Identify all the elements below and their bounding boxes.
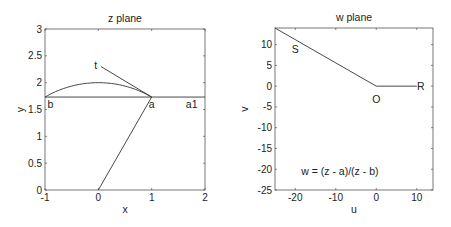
y-axis-label: v [238, 106, 250, 112]
y-tick-label: -25 [258, 185, 273, 196]
x-tick-label: -10 [329, 192, 344, 203]
y-tick-label: 0.5 [28, 158, 42, 169]
annotation-label: w = (z - a)/(z - b) [300, 165, 378, 177]
chart-title: w plane [335, 11, 372, 23]
annotation-label: t [94, 59, 97, 71]
y-tick-label: 2 [36, 77, 42, 88]
x-tick-label: 2 [202, 192, 208, 203]
y-tick-label: -5 [263, 101, 272, 112]
annotation-label: R [417, 80, 425, 92]
axes-frame [45, 29, 205, 190]
x-tick-label: 1 [149, 192, 155, 203]
series-line [98, 97, 151, 190]
y-tick-label: 1.5 [28, 104, 42, 115]
y-axis-label: y [14, 106, 26, 112]
y-tick-label: 0 [36, 185, 42, 196]
annotation-label: a [149, 98, 155, 110]
y-tick-label: -20 [258, 164, 273, 175]
z-plane-axes: -101200.511.522.53z planexytbaa1 [14, 12, 208, 215]
y-tick-label: -15 [258, 143, 273, 154]
annotation-label: a1 [186, 98, 198, 110]
x-tick-label: -20 [288, 192, 303, 203]
series-line [101, 67, 152, 97]
x-tick-label: 10 [411, 192, 423, 203]
annotation-label: S [292, 43, 299, 55]
chart-title: z plane [108, 12, 142, 24]
y-tick-label: 10 [261, 39, 273, 50]
annotation-label: O [372, 93, 380, 105]
y-tick-label: -10 [258, 122, 273, 133]
y-tick-label: 5 [266, 60, 272, 71]
x-axis-label: u [351, 203, 357, 215]
y-tick-label: 1 [36, 131, 42, 142]
y-tick-label: 2.5 [28, 50, 42, 61]
y-tick-label: 3 [36, 24, 42, 35]
annotation-label: b [47, 98, 53, 110]
series-line [275, 28, 376, 86]
figure: -101200.511.522.53z planexytbaa1 -20-100… [0, 0, 451, 227]
x-axis-label: x [122, 203, 128, 215]
x-tick-label: 0 [96, 192, 102, 203]
y-tick-label: 0 [266, 81, 272, 92]
series-line [45, 83, 152, 97]
w-plane-axes: -20-10010-25-20-15-10-50510w planeuvSORw… [238, 11, 433, 215]
x-tick-label: 0 [374, 192, 380, 203]
